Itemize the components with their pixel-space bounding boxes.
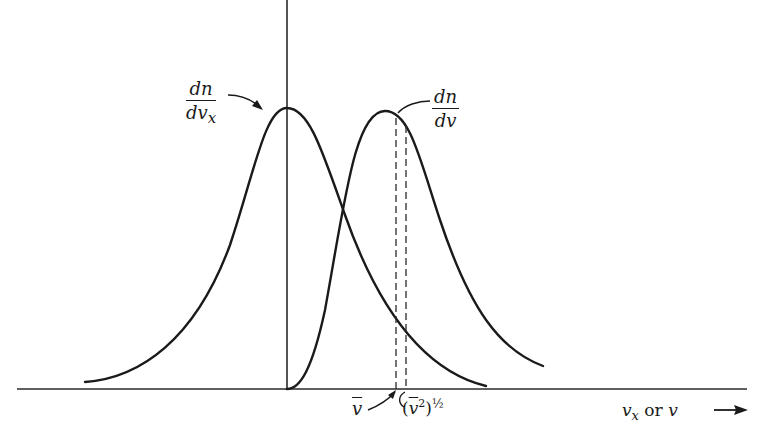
- rms-exponent: ½: [432, 397, 444, 411]
- mean-speed-label: v: [352, 398, 362, 419]
- rms-symbol: v: [409, 398, 419, 418]
- diagram-graphics: [0, 0, 767, 436]
- denominator-text: dv: [186, 102, 208, 123]
- rms-speed-label: (v2)½: [402, 397, 444, 418]
- x-label-subscript: x: [632, 408, 639, 423]
- component-distribution-curve: [85, 108, 486, 386]
- denominator-subscript: x: [208, 109, 216, 127]
- label-numerator: dn: [188, 80, 215, 100]
- label-numerator: dn: [432, 88, 459, 108]
- x-axis-label: vx or v: [622, 400, 678, 423]
- speed-distribution-label: dn dv: [432, 88, 459, 130]
- speed-distribution-curve: [287, 111, 543, 389]
- label-denominator: dv: [435, 109, 457, 130]
- component-distribution-label: dn dvx: [186, 80, 216, 126]
- rms-close-paren: ): [425, 398, 432, 418]
- x-label-vx: v: [622, 400, 632, 420]
- speed-label-pointer: [398, 101, 430, 113]
- x-label-v: v: [668, 400, 678, 420]
- arrow-right-icon: [734, 405, 748, 415]
- maxwell-distribution-diagram: dn dvx dn dv v (v2)½ vx or v: [0, 0, 767, 436]
- x-label-or: or: [639, 400, 668, 420]
- label-denominator: dvx: [186, 101, 216, 126]
- rms-open-paren: (: [402, 398, 409, 418]
